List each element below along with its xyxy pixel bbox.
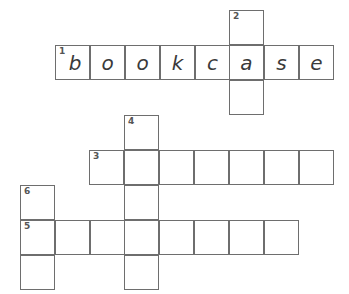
crossword-cell[interactable]: 1b bbox=[55, 45, 90, 80]
cell-letter: s bbox=[265, 46, 298, 79]
crossword-cell[interactable]: o bbox=[90, 45, 125, 80]
cell-letter: b bbox=[56, 46, 89, 79]
crossword-cell[interactable] bbox=[124, 220, 159, 255]
crossword-cell[interactable] bbox=[229, 220, 264, 255]
cell-letter bbox=[230, 81, 263, 114]
crossword-cell[interactable]: 4 bbox=[124, 115, 159, 150]
cell-letter bbox=[91, 221, 124, 254]
crossword-cell[interactable] bbox=[229, 80, 264, 115]
cell-letter: c bbox=[196, 46, 229, 79]
crossword-cell[interactable] bbox=[264, 150, 299, 185]
crossword-cell[interactable] bbox=[90, 220, 125, 255]
crossword-cell[interactable] bbox=[194, 220, 229, 255]
cell-letter bbox=[195, 151, 228, 184]
cell-letter bbox=[125, 256, 158, 289]
crossword-cell[interactable] bbox=[194, 150, 229, 185]
cell-letter bbox=[160, 151, 193, 184]
crossword-cell[interactable]: a bbox=[229, 45, 264, 80]
cell-letter bbox=[21, 186, 54, 219]
cell-letter bbox=[265, 151, 298, 184]
cell-letter: k bbox=[161, 46, 194, 79]
crossword-cell[interactable]: 5 bbox=[20, 220, 55, 255]
crossword-cell[interactable]: e bbox=[299, 45, 334, 80]
cell-letter bbox=[230, 11, 263, 44]
crossword-cell[interactable]: c bbox=[195, 45, 230, 80]
crossword-cell[interactable] bbox=[124, 255, 159, 290]
cell-letter bbox=[125, 186, 158, 219]
crossword-cell[interactable]: k bbox=[160, 45, 195, 80]
cell-letter bbox=[195, 221, 228, 254]
crossword-cell[interactable]: o bbox=[125, 45, 160, 80]
crossword-cell[interactable] bbox=[159, 220, 194, 255]
crossword-cell[interactable] bbox=[264, 220, 299, 255]
cell-letter bbox=[265, 221, 298, 254]
cell-letter bbox=[230, 151, 263, 184]
cell-letter bbox=[160, 221, 193, 254]
cell-letter bbox=[90, 151, 123, 184]
cell-letter bbox=[21, 221, 54, 254]
crossword-cell[interactable]: 3 bbox=[89, 150, 124, 185]
crossword-grid: 1bookcase24365 bbox=[0, 0, 349, 294]
crossword-cell[interactable] bbox=[124, 150, 159, 185]
cell-letter bbox=[125, 116, 158, 149]
crossword-cell[interactable]: 2 bbox=[229, 10, 264, 45]
cell-letter bbox=[125, 151, 158, 184]
crossword-cell[interactable] bbox=[159, 150, 194, 185]
cell-letter bbox=[56, 221, 89, 254]
cell-letter bbox=[300, 151, 333, 184]
cell-letter: a bbox=[230, 46, 263, 79]
cell-letter: o bbox=[126, 46, 159, 79]
crossword-cell[interactable] bbox=[124, 185, 159, 220]
crossword-cell[interactable] bbox=[55, 220, 90, 255]
crossword-cell[interactable]: s bbox=[264, 45, 299, 80]
cell-letter bbox=[125, 221, 158, 254]
cell-letter bbox=[21, 256, 54, 289]
cell-letter bbox=[230, 221, 263, 254]
crossword-cell[interactable] bbox=[299, 150, 334, 185]
cell-letter: o bbox=[91, 46, 124, 79]
crossword-cell[interactable]: 6 bbox=[20, 185, 55, 220]
crossword-cell[interactable] bbox=[20, 255, 55, 290]
crossword-cell[interactable] bbox=[229, 150, 264, 185]
cell-letter: e bbox=[300, 46, 333, 79]
